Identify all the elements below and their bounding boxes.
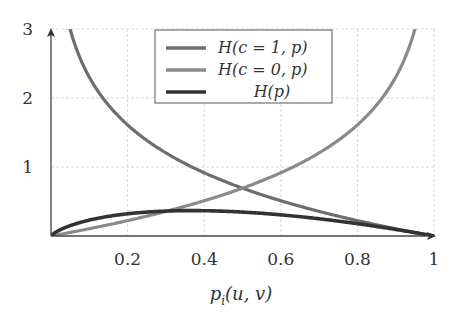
legend-label: H(c = 1, p) <box>217 38 308 57</box>
x-tick-label: 0.6 <box>267 249 294 269</box>
y-tick-label: 1 <box>22 157 33 177</box>
x-axis-label: pi(u, v) <box>210 283 273 308</box>
x-tick-label: 1 <box>429 249 440 269</box>
legend-label: H(p) <box>253 82 291 101</box>
legend-label: H(c = 0, p) <box>217 60 308 79</box>
chart: 0.20.40.60.81123 pi(u, v) H(c = 1, p)H(c… <box>0 0 462 324</box>
x-tick-label: 0.2 <box>114 249 141 269</box>
legend: H(c = 1, p)H(c = 0, p)H(p) <box>155 30 332 103</box>
y-tick-label: 3 <box>22 19 33 39</box>
x-tick-label: 0.4 <box>191 249 218 269</box>
y-tick-label: 2 <box>22 88 33 108</box>
x-tick-label: 0.8 <box>344 249 371 269</box>
